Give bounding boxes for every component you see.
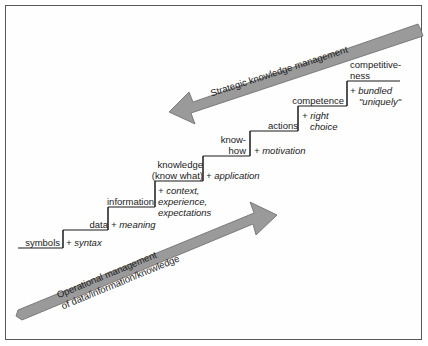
step-information-term-line1: information <box>107 196 154 207</box>
step-data-term-line1: data <box>90 219 109 230</box>
step-knowledge: knowledge (know what) + application <box>142 159 287 181</box>
step-actions: actions + right choice <box>244 110 364 131</box>
step-competitiveness-term: competitive- ness <box>350 59 401 81</box>
step-know-how: know- how + motivation <box>196 134 326 156</box>
step-competence-qualifier-line1: + bundled <box>350 85 401 96</box>
step-knowledge-term-line2: (know what) <box>152 170 203 181</box>
step-symbols: symbols + syntax <box>18 232 108 248</box>
step-know-how-qualifier: + motivation <box>254 145 306 156</box>
step-data-qualifier: + meaning <box>111 219 156 230</box>
step-competence: competence + bundled "uniquely" <box>262 85 422 106</box>
step-competitiveness-term-line1: competitive- <box>350 59 401 70</box>
step-knowledge-term-line1: knowledge <box>152 159 203 170</box>
step-actions-term: actions <box>268 120 298 131</box>
step-knowledge-term: knowledge (know what) <box>152 159 203 181</box>
step-knowledge-qualifier-line1: + application <box>206 170 260 181</box>
step-data: data + meaning <box>63 214 158 230</box>
step-competitiveness: competitive- ness <box>350 59 426 81</box>
step-actions-qualifier-line2: choice <box>302 121 337 132</box>
step-symbols-term: symbols <box>25 237 60 248</box>
step-symbols-qualifier: + syntax <box>66 237 102 248</box>
step-data-qualifier-line1: + meaning <box>111 219 156 230</box>
step-competence-term: competence <box>292 95 344 106</box>
step-information-qualifier-line1: + context, <box>158 185 211 196</box>
step-knowledge-qualifier: + application <box>206 170 260 181</box>
step-know-how-term-line2: how <box>221 145 246 156</box>
step-data-term: data <box>90 219 109 230</box>
step-actions-term-line1: actions <box>268 120 298 131</box>
step-actions-qualifier-line1: + right <box>302 110 337 121</box>
step-symbols-term-line1: symbols <box>25 237 60 248</box>
step-know-how-qualifier-line1: + motivation <box>254 145 306 156</box>
step-information-qualifier-line2: experience, <box>158 196 211 207</box>
step-information: information + context, experience, expec… <box>100 185 230 207</box>
step-competence-qualifier: + bundled "uniquely" <box>350 85 401 107</box>
step-actions-qualifier: + right choice <box>302 110 337 132</box>
step-symbols-qualifier-line1: + syntax <box>66 237 102 248</box>
step-competence-qualifier-line2: "uniquely" <box>350 96 401 107</box>
step-know-how-term: know- how <box>221 134 246 156</box>
step-know-how-term-line1: know- <box>221 134 246 145</box>
step-competence-term-line1: competence <box>292 95 344 106</box>
step-competitiveness-term-line2: ness <box>350 70 401 81</box>
step-information-qualifier: + context, experience, expectations <box>158 185 211 218</box>
step-information-qualifier-line3: expectations <box>158 207 211 218</box>
knowledge-staircase-figure: symbols + syntax data + meaning informat… <box>0 0 428 346</box>
step-information-term: information <box>107 196 154 207</box>
